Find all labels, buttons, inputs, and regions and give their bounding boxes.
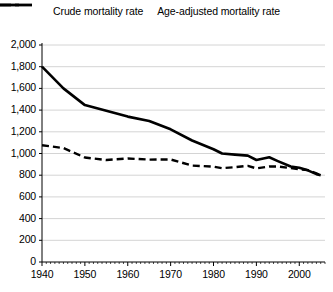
y-axis-tick-label: 400 xyxy=(2,212,36,224)
x-axis-tick-label: 2000 xyxy=(282,268,316,280)
x-axis-tick-label: 1960 xyxy=(111,268,145,280)
y-axis-tick-label: 800 xyxy=(2,168,36,180)
y-axis-tick-label: 600 xyxy=(2,190,36,202)
y-axis-tick-label: 1,600 xyxy=(2,81,36,93)
plot-area xyxy=(0,0,333,292)
mortality-rate-line-chart: Crude mortality rate Age-adjusted mortal… xyxy=(0,0,333,292)
x-axis-tick-label: 1990 xyxy=(239,268,273,280)
y-axis-tick-label: 0 xyxy=(2,255,36,267)
series-line-age-adjusted xyxy=(42,67,321,176)
x-axis-tick-label: 1980 xyxy=(197,268,231,280)
x-axis-tick-label: 1940 xyxy=(25,268,59,280)
x-axis-tick-label: 1950 xyxy=(68,268,102,280)
x-axis-tick-label: 1970 xyxy=(154,268,188,280)
y-axis-tick-label: 200 xyxy=(2,233,36,245)
y-axis-tick-label: 1,400 xyxy=(2,103,36,115)
y-axis-tick-label: 1,000 xyxy=(2,147,36,159)
y-axis-tick-label: 1,800 xyxy=(2,60,36,72)
y-axis-tick-label: 1,200 xyxy=(2,125,36,137)
y-axis-tick-label: 2,000 xyxy=(2,38,36,50)
